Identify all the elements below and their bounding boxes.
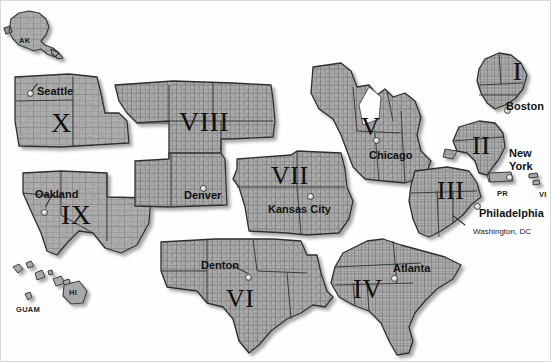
city-label-kansas-city: Kansas City <box>268 204 331 215</box>
territory-shape-virgin-islands <box>529 173 540 185</box>
region-numeral-i[interactable]: I <box>513 59 522 85</box>
region-numeral-vii[interactable]: VII <box>271 163 309 189</box>
city-marker-oakland[interactable] <box>41 209 48 216</box>
city-marker-chicago[interactable] <box>373 137 380 144</box>
territory-shape-guam <box>25 292 32 300</box>
region-numeral-iv[interactable]: IV <box>353 276 383 303</box>
region-shape-iv <box>331 239 461 355</box>
city-marker-new-york[interactable] <box>506 174 513 181</box>
region-numeral-viii[interactable]: VIII <box>179 108 229 136</box>
region-numeral-iii[interactable]: III <box>437 178 464 204</box>
region-numeral-x[interactable]: X <box>51 109 72 137</box>
territory-shape-alaska <box>4 11 63 59</box>
territory-label-pr: PR <box>497 190 508 198</box>
city-marker-kansas-city[interactable] <box>307 193 314 200</box>
region-numeral-ii[interactable]: II <box>472 133 490 159</box>
city-label-denver: Denver <box>184 190 221 201</box>
city-label-new-york-line2: York <box>509 161 533 172</box>
city-label-new-york-line1: New <box>509 148 532 159</box>
city-marker-atlanta[interactable] <box>391 275 398 282</box>
region-numeral-ix[interactable]: IX <box>61 201 92 229</box>
city-marker-denton[interactable] <box>245 274 252 281</box>
city-label-boston: Boston <box>506 101 544 112</box>
city-label-chicago: Chicago <box>369 150 412 161</box>
region-numeral-v[interactable]: V <box>361 114 380 140</box>
territory-label-vi: VI <box>539 191 547 199</box>
annotation-washington-dc: Washington, DC <box>473 228 531 236</box>
city-label-philadelphia: Philadelphia <box>479 208 544 219</box>
territory-label-guam: GUAM <box>16 306 40 314</box>
city-label-atlanta: Atlanta <box>393 263 430 274</box>
region-numeral-vi[interactable]: VI <box>226 286 254 312</box>
federal-regions-map: IBostonIINewYorkIIIPhiladelphiaIVAtlanta… <box>0 0 551 362</box>
territory-label-hi: HI <box>69 289 77 297</box>
territory-shape-hawaii <box>13 261 87 304</box>
territory-label-ak: AK <box>19 37 30 45</box>
city-label-seattle: Seattle <box>37 86 73 97</box>
city-label-oakland: Oakland <box>35 189 78 200</box>
